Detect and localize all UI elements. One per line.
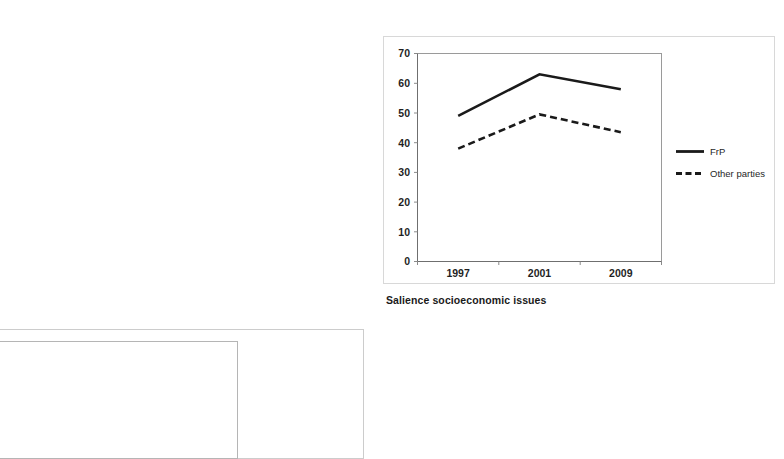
y-tick-label-40: 40 <box>398 137 410 149</box>
x-tick-label-2009: 2009 <box>609 267 633 279</box>
y-tick-label-30: 30 <box>398 166 410 178</box>
x-tick-label-2001: 2001 <box>528 267 552 279</box>
y-tick-label-10: 10 <box>398 226 410 238</box>
series-line-other-parties <box>458 114 621 148</box>
y-tick-label-0: 0 <box>404 255 410 267</box>
chart-caption: Salience socioeconomic issues <box>386 294 546 306</box>
legend-label-frp: FrP <box>710 146 725 157</box>
y-tick-marks <box>414 54 418 262</box>
secondary-chart-plot-frame <box>0 341 238 459</box>
y-tick-label-70: 70 <box>398 47 410 59</box>
legend-label-other-parties: Other parties <box>710 168 765 179</box>
series-line-frp <box>458 74 621 116</box>
chart-legend: FrP Other parties <box>676 146 765 179</box>
x-tick-marks <box>418 262 662 266</box>
x-tick-label-1997: 1997 <box>446 267 470 279</box>
y-tick-label-60: 60 <box>398 77 410 89</box>
salience-chart-object: 0 10 20 30 40 50 60 70 1997 2001 2009 Fr… <box>383 36 775 284</box>
plot-area-frame <box>418 54 662 262</box>
y-tick-label-20: 20 <box>398 196 410 208</box>
salience-line-chart: 0 10 20 30 40 50 60 70 1997 2001 2009 Fr… <box>384 37 776 285</box>
y-tick-label-50: 50 <box>398 107 410 119</box>
